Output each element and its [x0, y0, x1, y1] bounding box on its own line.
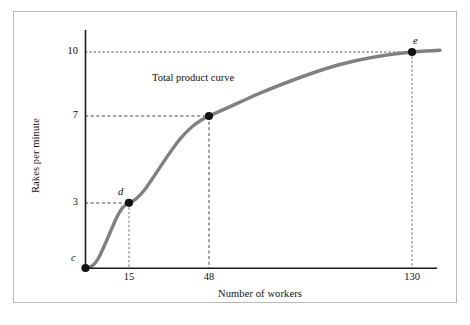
point-label-d: d	[118, 186, 123, 197]
point-label-e: e	[413, 35, 418, 46]
y-axis-title: Rakes per minute	[30, 96, 41, 216]
figure-container: 10 7 3 15 48 130 c d e Total product cur…	[0, 0, 470, 325]
point-48-7	[205, 112, 213, 120]
point-d	[125, 199, 133, 207]
total-product-curve	[86, 50, 441, 268]
curve-annotation-label: Total product curve	[152, 72, 234, 83]
point-label-c: c	[71, 252, 76, 263]
point-c	[81, 264, 89, 272]
point-e	[408, 48, 416, 56]
y-tick-label-3: 3	[56, 196, 78, 207]
y-tick-label-10: 10	[56, 45, 78, 56]
x-tick-label-48: 48	[194, 271, 224, 282]
x-axis-title: Number of workers	[180, 288, 340, 299]
x-tick-label-15: 15	[114, 271, 144, 282]
x-tick-label-130: 130	[397, 271, 427, 282]
y-tick-label-7: 7	[56, 109, 78, 120]
